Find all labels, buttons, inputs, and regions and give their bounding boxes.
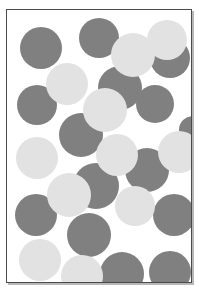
light-gray-circle xyxy=(147,20,187,60)
dark-gray-circle xyxy=(100,252,144,283)
dark-gray-circle xyxy=(153,194,192,236)
light-gray-circle xyxy=(115,186,155,226)
light-gray-circle xyxy=(19,239,61,281)
dark-gray-circle xyxy=(67,213,111,257)
light-gray-circle xyxy=(46,63,88,105)
dark-gray-circle xyxy=(136,85,174,123)
light-gray-circle xyxy=(96,134,138,176)
light-gray-circle xyxy=(16,137,58,179)
figure-root xyxy=(0,0,199,297)
light-gray-circle xyxy=(47,173,91,217)
light-gray-circle xyxy=(83,88,127,132)
light-gray-circle xyxy=(158,131,192,173)
light-gray-circle xyxy=(61,255,103,283)
dark-gray-circle xyxy=(149,251,191,283)
plot-frame xyxy=(6,9,192,283)
dark-gray-circle xyxy=(20,27,62,69)
